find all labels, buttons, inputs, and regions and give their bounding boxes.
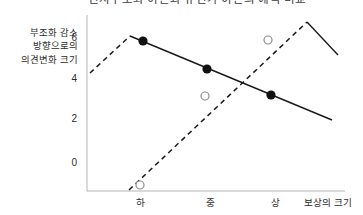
solid-right-descending-segment xyxy=(307,22,338,55)
data-point-filled-high xyxy=(266,90,275,99)
data-point-open-high xyxy=(264,36,272,44)
data-point-open-medium xyxy=(201,92,209,100)
chart-figure: 인지부조화 이론과 유인가 이론의 예측 비교 부조화 감소 방향으로의 의견변… xyxy=(0,0,363,215)
data-point-open-low xyxy=(136,181,144,189)
data-point-filled-medium xyxy=(202,64,211,73)
dashed-left-rising-segment xyxy=(90,36,130,73)
plot-area xyxy=(0,0,363,215)
dissonance-theory-solid-line xyxy=(130,36,332,120)
data-point-filled-low xyxy=(138,36,147,45)
